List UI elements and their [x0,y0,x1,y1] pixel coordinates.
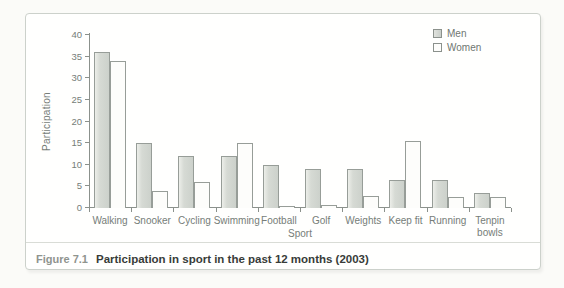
x-axis-tick [511,208,512,212]
bar-women-weights [363,196,379,208]
chart-legend: MenWomen [433,28,481,56]
y-tick-label-25: 25 [71,95,82,105]
y-axis-title: Participation [39,35,53,208]
figure-caption-text: Participation in sport in the past 12 mo… [96,253,369,265]
bar-women-walking [110,61,126,208]
bar-women-tenpin-bowls [490,197,506,208]
bar-women-keep-fit [405,141,421,208]
category-group-walking: Walking [89,35,131,208]
bar-women-cycling [194,182,210,208]
x-axis-tick [427,208,428,212]
category-group-snooker: Snooker [131,35,173,208]
x-axis-tick [131,208,132,212]
legend-swatch-men [433,29,442,38]
bar-women-swimming [237,143,253,208]
bar-men-tenpin-bowls [474,193,490,208]
x-axis-tick [469,208,470,212]
bar-men-football [263,165,279,208]
y-tick-label-20: 20 [71,117,82,127]
x-axis-tick [89,208,90,212]
category-group-swimming: Swimming [216,35,258,208]
x-axis-tick [300,208,301,212]
category-group-weights: Weights [342,35,384,208]
y-tick-label-30: 30 [71,73,82,83]
figure-caption: Figure 7.1Participation in sport in the … [36,249,369,267]
bar-men-walking [94,52,110,208]
bar-men-cycling [178,156,194,208]
bar-chart-plot-area: Participation 0510152025303540WalkingSno… [89,35,511,208]
y-tick-label-40: 40 [71,30,82,40]
bar-men-snooker [136,143,152,208]
y-tick-label-35: 35 [71,52,82,62]
legend-label-women: Women [447,42,481,53]
category-group-running: Running [427,35,469,208]
y-tick-label-5: 5 [77,181,82,191]
category-group-golf: Golf [300,35,342,208]
bar-men-golf [305,169,321,208]
legend-item-women: Women [433,42,481,53]
y-axis-title-text: Participation [41,92,52,151]
category-group-cycling: Cycling [173,35,215,208]
caption-divider-line [26,242,540,243]
bar-women-snooker [152,191,168,208]
bar-women-golf [321,205,337,208]
figure-box: Participation 0510152025303540WalkingSno… [25,13,541,270]
category-group-keep-fit: Keep fit [384,35,426,208]
category-group-tenpin-bowls: Tenpin bowls [469,35,511,208]
bar-men-swimming [221,156,237,208]
x-axis-tick [384,208,385,212]
legend-item-men: Men [433,28,481,39]
x-axis-tick [342,208,343,212]
y-tick-label-0: 0 [77,203,82,213]
x-axis-title: Sport [89,228,511,239]
legend-label-men: Men [447,28,466,39]
x-axis-tick [173,208,174,212]
legend-swatch-women [433,43,442,52]
bar-men-weights [347,169,363,208]
y-tick-label-15: 15 [71,138,82,148]
bar-men-keep-fit [389,180,405,208]
x-axis-tick [258,208,259,212]
x-axis-tick [216,208,217,212]
bar-men-running [432,180,448,208]
category-group-football: Football [258,35,300,208]
bar-women-football [279,206,295,208]
bar-women-running [448,197,464,208]
figure-number-label: Figure 7.1 [36,253,88,265]
textbook-figure-scan: Participation 0510152025303540WalkingSno… [0,0,564,288]
y-tick-label-10: 10 [71,160,82,170]
